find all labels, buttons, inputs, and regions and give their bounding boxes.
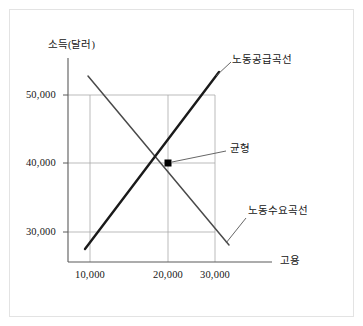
figure-root: 소득(달러) 고용 50,000 40,000 30,000 10,000 20… [0, 0, 363, 326]
labor-demand-curve-label: 노동수요곡선 [248, 206, 308, 217]
demand-curve-leader-line [226, 218, 246, 243]
equilibrium-point-marker [165, 160, 172, 167]
y-tick-label-30000: 30,000 [8, 227, 56, 238]
labor-demand-curve [88, 76, 229, 245]
y-axis-ticks [63, 95, 68, 232]
y-axis-title: 소득(달러) [48, 40, 95, 51]
x-tick-label-20000: 20,000 [141, 270, 195, 281]
supply-curve-leader-line [216, 62, 231, 76]
x-tick-label-30000: 30,000 [188, 270, 242, 281]
x-tick-label-10000: 10,000 [63, 270, 117, 281]
gridlines [68, 95, 215, 262]
equilibrium-label: 균형 [230, 144, 250, 155]
x-axis-title: 고용 [280, 256, 300, 267]
y-tick-label-40000: 40,000 [8, 158, 56, 169]
labor-supply-curve [85, 72, 219, 249]
y-tick-label-50000: 50,000 [8, 90, 56, 101]
labor-supply-curve-label: 노동공급곡선 [232, 55, 292, 66]
equilibrium-leader-line [172, 151, 226, 162]
